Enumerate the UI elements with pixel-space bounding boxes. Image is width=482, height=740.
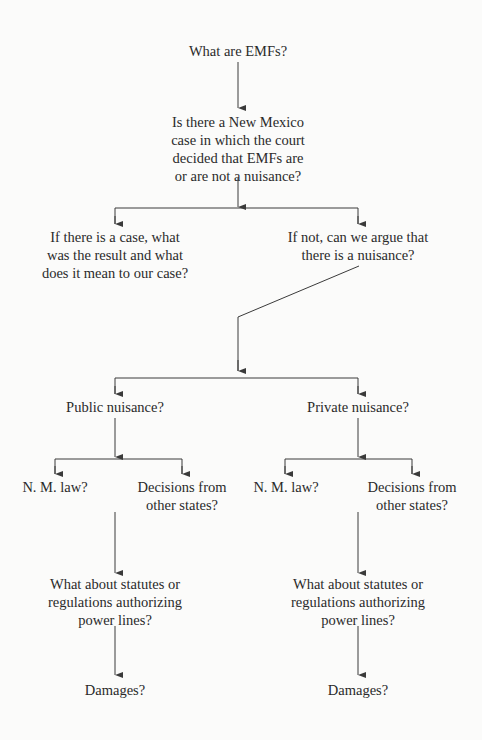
node-what-are-emfs: What are EMFs? [138, 42, 338, 60]
node-public-nm-law: N. M. law? [5, 478, 105, 496]
node-public-nuisance: Public nuisance? [25, 398, 205, 416]
node-if-not: If not, can we argue that there is a nui… [248, 228, 468, 264]
node-if-case: If there is a case, what was the result … [5, 228, 225, 282]
node-private-decisions: Decisions from other states? [357, 478, 467, 514]
node-private-statutes: What about statutes or regulations autho… [258, 575, 458, 629]
node-nm-case: Is there a New Mexico case in which the … [118, 113, 358, 185]
node-private-damages: Damages? [288, 681, 428, 699]
node-public-statutes: What about statutes or regulations autho… [15, 575, 215, 629]
node-public-damages: Damages? [45, 681, 185, 699]
node-private-nuisance: Private nuisance? [268, 398, 448, 416]
connector-lines [0, 0, 482, 740]
node-private-nm-law: N. M. law? [236, 478, 336, 496]
node-public-decisions: Decisions from other states? [127, 478, 237, 514]
